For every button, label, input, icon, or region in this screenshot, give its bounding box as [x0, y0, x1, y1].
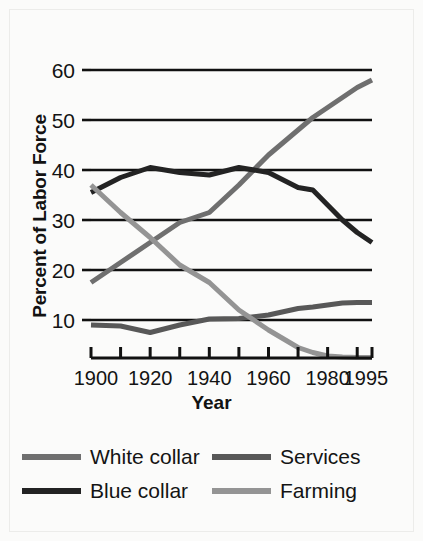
legend-label-farming: Farming — [280, 479, 357, 503]
legend-label-services: Services — [280, 445, 361, 469]
legend-item-blue-collar: Blue collar — [22, 479, 212, 503]
line-chart-plot: 605040302010 190019201940196019801995 — [0, 0, 423, 400]
legend-swatch-white-collar — [22, 454, 81, 460]
x-tick-label: 1900 — [74, 367, 119, 389]
legend-item-services: Services — [212, 445, 402, 469]
y-tick-label: 60 — [52, 59, 75, 82]
y-tick-label: 10 — [52, 309, 75, 332]
x-axis-title: Year — [0, 392, 423, 414]
x-tick-label: 1940 — [187, 367, 232, 389]
series-line-services — [91, 303, 372, 333]
legend-swatch-farming — [212, 488, 271, 494]
legend-item-farming: Farming — [212, 479, 402, 503]
x-tick-label: 1995 — [344, 367, 389, 389]
legend-item-white-collar: White collar — [22, 445, 212, 469]
legend-swatch-blue-collar — [22, 488, 81, 494]
y-tick-label: 30 — [52, 209, 75, 232]
chart-legend: White collar Services Blue collar Farmin… — [22, 440, 402, 508]
legend-swatch-services — [212, 454, 271, 460]
legend-label-white-collar: White collar — [90, 445, 200, 469]
series-line-blue-collar — [91, 168, 372, 243]
x-tick-label: 1960 — [246, 367, 291, 389]
series-line-white-collar — [91, 80, 372, 283]
legend-label-blue-collar: Blue collar — [90, 479, 188, 503]
y-tick-label: 20 — [52, 259, 75, 282]
y-tick-labels-group: 605040302010 — [52, 59, 75, 332]
y-tick-label: 40 — [52, 159, 75, 182]
chart-figure: Percent of Labor Force 605040302010 1900… — [0, 0, 423, 541]
x-tick-labels-group: 190019201940196019801995 — [74, 367, 389, 389]
y-tick-label: 50 — [52, 109, 75, 132]
x-tick-label: 1920 — [128, 367, 173, 389]
